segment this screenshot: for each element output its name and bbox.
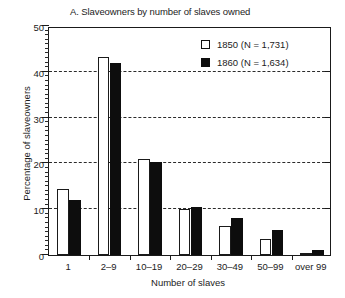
x-axis-tick [89, 255, 90, 260]
plot-area: 1850 (N = 1,731) 1860 (N = 1,634) [48, 27, 331, 256]
y-axis-minor-tick [45, 80, 49, 81]
bar-1850 [98, 57, 110, 255]
y-axis-minor-tick [45, 240, 49, 241]
y-axis-minor-tick [45, 39, 49, 40]
y-axis-minor-tick [45, 245, 49, 246]
y-axis-minor-tick [45, 140, 49, 141]
y-axis-tick-label: 30 [4, 113, 44, 124]
x-axis-tick-label: 30–49 [217, 261, 243, 272]
legend-label-1860: 1860 (N = 1,634) [217, 57, 289, 68]
plot-inner: 1850 (N = 1,731) 1860 (N = 1,634) [49, 28, 330, 255]
y-axis-minor-tick [45, 130, 49, 131]
y-axis-tick-label: 20 [4, 159, 44, 170]
bar-1860 [191, 207, 203, 255]
y-axis-minor-tick [45, 30, 49, 31]
figure: A. Slaveowners by number of slaves owned… [0, 0, 345, 298]
y-axis-minor-tick [45, 176, 49, 177]
y-axis-minor-tick [45, 85, 49, 86]
y-axis-minor-tick [45, 34, 49, 35]
y-axis-tick-label: 50 [4, 22, 44, 33]
y-axis-tick-label: 10 [4, 205, 44, 216]
y-axis-minor-tick [45, 231, 49, 232]
y-axis-minor-tick [45, 52, 49, 53]
y-axis-minor-tick [45, 181, 49, 182]
y-axis-tick-label: 0 [4, 251, 44, 262]
y-axis-minor-tick [45, 149, 49, 150]
y-axis-minor-tick [45, 57, 49, 58]
legend-swatch-open-square-icon [201, 40, 210, 49]
chart-title: A. Slaveowners by number of slaves owned [70, 6, 345, 17]
y-axis-minor-tick [45, 98, 49, 99]
y-axis-minor-tick [45, 236, 49, 237]
y-axis-minor-tick [45, 194, 49, 195]
x-axis-tick [292, 255, 293, 260]
bar-1860 [69, 200, 81, 255]
y-axis-minor-tick [45, 94, 49, 95]
y-axis-minor-tick [45, 167, 49, 168]
legend-swatch-filled-square-icon [201, 58, 210, 67]
bar-1850 [300, 253, 312, 255]
y-axis-tick-label: 40 [4, 67, 44, 78]
x-axis-tick [130, 255, 131, 260]
x-axis-tick-label: 50–99 [257, 261, 283, 272]
y-axis-minor-tick [45, 112, 49, 113]
y-axis-minor-tick [45, 204, 49, 205]
y-axis-minor-tick [45, 227, 49, 228]
y-axis-minor-tick [45, 107, 49, 108]
x-axis-tick-label: 1 [66, 261, 71, 272]
x-axis-tick [251, 255, 252, 260]
bar-group [57, 28, 81, 255]
legend: 1850 (N = 1,731) 1860 (N = 1,634) [201, 36, 289, 72]
x-axis-tick-label: 20–29 [176, 261, 202, 272]
x-axis-tick-label: 10–19 [136, 261, 162, 272]
bar-1860 [150, 162, 162, 255]
y-axis-minor-tick [45, 126, 49, 127]
x-axis-tick-label: 2–9 [101, 261, 117, 272]
bar-1860 [231, 218, 243, 255]
legend-entry-1860: 1860 (N = 1,634) [201, 54, 289, 70]
y-axis-right-tick [325, 162, 330, 163]
y-axis-minor-tick [45, 75, 49, 76]
bar-1850 [219, 226, 231, 255]
y-axis-minor-tick [45, 66, 49, 67]
legend-label-1850: 1850 (N = 1,731) [217, 39, 289, 50]
y-axis-minor-tick [45, 62, 49, 63]
y-axis-minor-tick [45, 172, 49, 173]
y-axis-minor-tick [45, 213, 49, 214]
x-axis-tick [170, 255, 171, 260]
y-axis-minor-tick [45, 89, 49, 90]
bar-group [179, 28, 203, 255]
y-axis-minor-tick [45, 249, 49, 250]
y-axis-minor-tick [45, 103, 49, 104]
bar-1860 [110, 63, 122, 255]
bar-group [300, 28, 324, 255]
legend-entry-1850: 1850 (N = 1,731) [201, 36, 289, 52]
y-axis-minor-tick [45, 153, 49, 154]
y-axis-minor-tick [45, 199, 49, 200]
y-axis-minor-tick [45, 217, 49, 218]
y-axis-minor-tick [45, 222, 49, 223]
bar-1850 [260, 239, 272, 255]
y-axis-minor-tick [45, 43, 49, 44]
x-axis-tick [211, 255, 212, 260]
bar-group [138, 28, 162, 255]
y-axis-right-tick [325, 117, 330, 118]
y-axis-right-tick [325, 208, 330, 209]
x-axis-title: Number of slaves [43, 277, 333, 288]
y-axis-minor-tick [45, 158, 49, 159]
bar-1850 [179, 209, 191, 255]
x-axis-tick-label: over 99 [295, 261, 327, 272]
bar-1850 [138, 159, 150, 255]
y-axis-minor-tick [45, 48, 49, 49]
y-axis-minor-tick [45, 121, 49, 122]
y-axis-right-tick [325, 71, 330, 72]
bar-1860 [312, 250, 324, 255]
bar-1860 [272, 230, 284, 255]
y-axis-minor-tick [45, 135, 49, 136]
bar-group [98, 28, 122, 255]
y-axis-minor-tick [45, 185, 49, 186]
y-axis-minor-tick [45, 144, 49, 145]
bar-1850 [57, 189, 69, 255]
y-axis-minor-tick [45, 190, 49, 191]
